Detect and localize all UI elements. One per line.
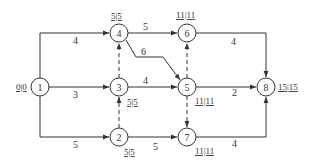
node-7-time: 11|11 (195, 146, 214, 156)
duration-2-7: 5 (153, 141, 158, 152)
node-5-time: 11|11 (195, 96, 214, 106)
node-3-time: 5|5 (127, 97, 138, 107)
node-6-time: 11|11 (176, 10, 195, 20)
node-8-label: 8 (264, 82, 269, 93)
node-1-time: 0|0 (16, 82, 27, 92)
edge-4-5 (126, 40, 180, 80)
duration-1-2: 5 (73, 139, 78, 150)
duration-7-8: 4 (232, 138, 237, 149)
node-7-label: 7 (185, 132, 190, 143)
edge-1-2 (40, 96, 109, 137)
node-4-label: 4 (117, 28, 122, 39)
network-diagram: 4 3 5 5 6 4 5 4 2 4 1 2 3 4 5 6 7 8 0|0 … (0, 0, 310, 166)
node-2-label: 2 (117, 132, 122, 143)
duration-4-6: 5 (143, 21, 148, 32)
node-2-time: 5|5 (124, 147, 135, 157)
duration-4-5: 6 (141, 46, 146, 57)
node-5-label: 5 (185, 82, 190, 93)
node-1-label: 1 (38, 82, 43, 93)
node-3-label: 3 (117, 82, 122, 93)
node-6-label: 6 (185, 28, 190, 39)
duration-3-5: 4 (143, 75, 148, 86)
duration-1-3: 3 (73, 89, 78, 100)
duration-6-8: 4 (231, 36, 236, 47)
duration-1-4: 4 (73, 35, 78, 46)
node-8-time: 15|15 (278, 82, 298, 92)
node-4-time: 5|5 (111, 11, 122, 21)
duration-5-8: 2 (232, 87, 237, 98)
